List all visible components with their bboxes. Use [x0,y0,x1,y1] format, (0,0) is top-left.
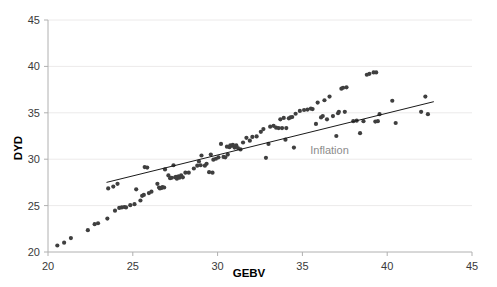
scatter-chart: 202530354045 202530354045 Inflation DYD … [0,0,497,287]
annotation-inflation: Inflation [310,144,349,156]
data-point [62,241,66,245]
data-point [331,114,335,118]
data-point [298,109,302,113]
data-point [292,146,296,150]
data-point [55,243,59,247]
data-point [105,216,109,220]
data-point [290,115,294,119]
data-point [321,114,325,118]
data-point [124,205,128,209]
data-point [423,94,427,98]
data-point [250,135,254,139]
data-point [181,175,185,179]
data-point [142,193,146,197]
data-point [204,162,208,166]
data-point [419,110,423,114]
data-point [199,153,203,157]
data-point [69,236,73,240]
chart-annotations: Inflation [310,144,349,156]
data-point [145,165,149,169]
data-point [241,140,245,144]
trend-line-path [107,102,434,183]
y-tick-label-30: 30 [28,153,40,165]
data-point [111,184,115,188]
y-axis-title: DYD [12,136,24,160]
data-point [255,134,259,138]
data-point [162,185,166,189]
data-point [192,166,196,170]
x-tick-label-25: 25 [127,260,139,272]
x-tick-label-40: 40 [381,260,393,272]
y-tick-label-25: 25 [28,200,40,212]
data-point [86,228,90,232]
data-point [138,198,142,202]
data-point [376,119,380,123]
gridlines [48,20,472,206]
data-point [390,99,394,103]
data-point [325,117,329,121]
data-point [210,171,214,175]
data-point [294,112,298,116]
data-point [261,127,265,131]
chart-canvas: 202530354045 202530354045 Inflation DYD … [0,0,497,287]
data-point [374,70,378,74]
data-point [134,187,138,191]
data-point [322,98,326,102]
data-point [343,110,347,114]
x-tick-label-30: 30 [211,260,223,272]
data-point [426,112,430,116]
data-point [216,155,220,159]
y-tick-label-45: 45 [28,14,40,26]
data-point [248,139,252,143]
data-point [155,182,159,186]
data-point [199,163,203,167]
data-point [113,209,117,213]
y-tick-label-20: 20 [28,246,40,258]
x-tick-label-45: 45 [466,260,478,272]
data-point [96,221,100,225]
data-point [327,94,331,98]
data-point [367,72,371,76]
data-point [314,122,318,126]
data-point [284,126,288,130]
y-tick-label-35: 35 [28,107,40,119]
data-point [280,126,284,130]
x-tick-label-35: 35 [296,260,308,272]
data-point [334,134,338,138]
data-point [310,107,314,111]
trend-line [107,102,434,183]
data-point [132,202,136,206]
data-point [282,116,286,120]
data-point [264,156,268,160]
data-point [358,131,362,135]
data-point [394,121,398,125]
data-point [344,85,348,89]
data-point [187,171,191,175]
data-point [115,182,119,186]
data-point [106,186,110,190]
data-point [219,142,223,146]
data-point [337,110,341,114]
data-point [244,136,248,140]
axis-lines [48,20,472,252]
y-tick-label-40: 40 [28,60,40,72]
x-axis-title: GEBV [233,267,266,279]
data-point [128,203,132,207]
data-point [316,100,320,104]
x-tick-label-20: 20 [42,260,54,272]
y-axis-tick-labels: 202530354045 [28,14,40,258]
data-point [149,190,153,194]
